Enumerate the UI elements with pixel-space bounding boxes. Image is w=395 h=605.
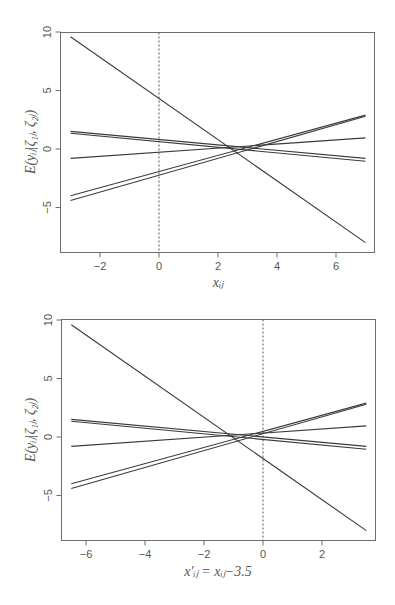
- series-line: [71, 37, 366, 243]
- x-axis-label: x′ᵢⱼ = xᵢⱼ−3.5: [183, 564, 251, 579]
- figure: −50510 −20246 xᵢⱼ E(yᵢⱼ|ζ₁ⱼ, ζ₂ⱼ) −50510…: [0, 0, 395, 605]
- x-tick-label: −6: [80, 548, 93, 560]
- x-tick-label: −4: [139, 548, 152, 560]
- y-tick-label: 10: [42, 314, 54, 326]
- y-tick-label: −5: [42, 489, 54, 502]
- x-tick-label: −2: [198, 548, 211, 560]
- y-axis: −50510: [42, 314, 62, 502]
- y-tick-label: 5: [42, 375, 54, 381]
- x-axis-label: xᵢⱼ: [212, 275, 225, 290]
- y-axis-label: E(yᵢⱼ|ζ₁ⱼ, ζ₂ⱼ): [23, 398, 39, 464]
- series-line: [71, 116, 366, 200]
- series-line: [71, 421, 366, 449]
- y-tick-label: 0: [42, 434, 54, 440]
- x-tick-label: 0: [260, 548, 266, 560]
- x-tick-label: −2: [94, 260, 107, 272]
- x-tick-label: 4: [274, 260, 280, 272]
- series-line: [71, 133, 366, 161]
- x-tick-label: 2: [319, 548, 325, 560]
- series-lines: [71, 37, 366, 243]
- y-axis: −50510: [41, 26, 61, 214]
- series-line: [71, 131, 366, 158]
- top-plot: −50510 −20246 xᵢⱼ E(yᵢⱼ|ζ₁ⱼ, ζ₂ⱼ): [23, 26, 375, 290]
- series-line: [71, 325, 366, 531]
- y-tick-label: 5: [41, 87, 53, 93]
- bottom-plot: −50510 −6−4−202 x′ᵢⱼ = xᵢⱼ−3.5 E(yᵢⱼ|ζ₁ⱼ…: [23, 314, 376, 579]
- y-tick-label: 10: [41, 26, 53, 38]
- plot-frame: [62, 320, 376, 541]
- y-axis-label: E(yᵢⱼ|ζ₁ⱼ, ζ₂ⱼ): [23, 110, 39, 176]
- y-tick-label: −5: [41, 201, 53, 214]
- x-axis: −20246: [94, 253, 339, 272]
- x-tick-label: 0: [156, 260, 162, 272]
- x-axis: −6−4−202: [80, 541, 325, 560]
- series-line: [71, 404, 366, 488]
- series-line: [71, 419, 366, 446]
- x-tick-label: 2: [215, 260, 221, 272]
- x-tick-label: 6: [333, 260, 339, 272]
- series-lines: [71, 325, 366, 531]
- y-tick-label: 0: [41, 146, 53, 152]
- plot-frame: [61, 33, 375, 253]
